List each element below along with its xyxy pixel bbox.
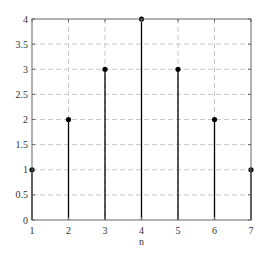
- x-tick-label: 5: [176, 225, 181, 236]
- y-tick-label: 1: [23, 164, 28, 175]
- stem-marker: [102, 67, 107, 72]
- stem-marker: [212, 117, 217, 122]
- y-tick-label: 3: [23, 64, 28, 75]
- y-tick-label: 0.5: [16, 189, 29, 200]
- x-tick-label: 6: [212, 225, 217, 236]
- data-stems: [29, 16, 253, 220]
- stem-marker: [66, 117, 71, 122]
- y-tick-label: 4: [23, 14, 28, 25]
- y-tick-label: 2.5: [16, 89, 29, 100]
- y-tick-label: 2: [23, 114, 28, 125]
- x-tick-label: 3: [103, 225, 108, 236]
- stem-plot: 00.511.522.533.54 1234567 n: [0, 0, 268, 256]
- x-tick-label: 4: [139, 225, 144, 236]
- y-tick-label: 1.5: [16, 139, 29, 150]
- x-tick-label: 2: [66, 225, 71, 236]
- x-tick-label: 1: [30, 225, 35, 236]
- stem-marker: [175, 67, 180, 72]
- x-tick-label: 7: [249, 225, 254, 236]
- x-axis-label: n: [139, 236, 144, 247]
- y-tick-label: 0: [23, 215, 28, 226]
- y-tick-label: 3.5: [16, 39, 29, 50]
